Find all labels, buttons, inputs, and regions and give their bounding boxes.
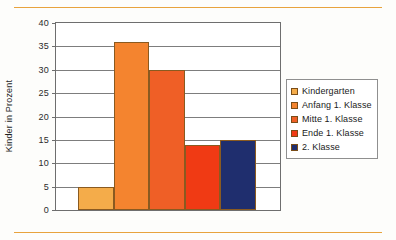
legend-swatch-icon [291,102,298,109]
y-axis-tick-label: 15 [38,135,49,145]
bottom-divider-rule [14,232,382,233]
y-axis-tick [52,187,56,188]
y-axis-tick [52,23,56,24]
legend-item-label: 2. Klasse [302,142,340,152]
legend-item-label: Kindergarten [302,86,355,96]
plot-area: 0510152025303540 [55,22,281,211]
y-axis-tick-label: 30 [38,65,49,75]
y-axis-tick-label: 20 [38,112,49,122]
y-axis-tick-label: 0 [44,205,49,215]
legend-item-label: Mitte 1. Klasse [302,114,363,124]
legend-swatch-icon [291,88,298,95]
legend-swatch-icon [291,130,298,137]
y-axis-tick-label: 25 [38,88,49,98]
y-axis-tick [52,46,56,47]
y-axis-tick [52,140,56,141]
bar-3 [149,70,185,210]
chart-legend: KindergartenAnfang 1. KlasseMitte 1. Kla… [286,79,378,159]
gridline [56,46,280,47]
top-divider-rule [14,7,382,8]
legend-item-3: Mitte 1. Klasse [291,112,373,126]
y-axis-tick-label: 5 [44,182,49,192]
bar-1 [78,187,114,210]
legend-item-label: Anfang 1. Klasse [302,100,372,110]
bar-2 [114,42,150,210]
legend-item-label: Ende 1. Klasse [302,128,364,138]
legend-item-2: Anfang 1. Klasse [291,98,373,112]
y-axis-tick [52,93,56,94]
legend-item-1: Kindergarten [291,84,373,98]
y-axis-tick [52,210,56,211]
y-axis-tick-label: 10 [38,158,49,168]
y-axis-title: Kinder in Prozent [4,80,14,152]
y-axis-tick [52,70,56,71]
y-axis-tick-label: 35 [38,41,49,51]
y-axis-tick [52,117,56,118]
legend-item-5: 2. Klasse [291,140,373,154]
y-axis-tick [52,163,56,164]
legend-item-4: Ende 1. Klasse [291,126,373,140]
legend-swatch-icon [291,116,298,123]
legend-swatch-icon [291,144,298,151]
chart-figure: Kinder in Prozent 0510152025303540 Kinde… [0,0,396,240]
bar-4 [185,145,221,210]
y-axis-tick-label: 40 [38,18,49,28]
bar-5 [220,140,256,210]
